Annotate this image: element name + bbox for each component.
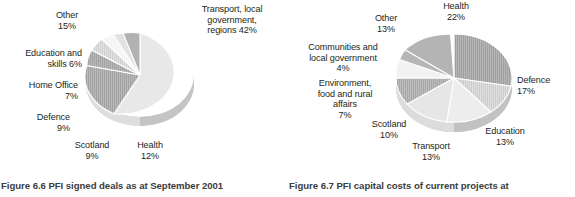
figure-caption: Figure 6.7 PFI capital costs of current …	[289, 180, 575, 191]
figure-pfi-capital-costs: Health 22% Other 13% Communities and loc…	[288, 0, 575, 197]
slice-label-environment: Environment, food and rural affairs 7%	[304, 78, 386, 120]
slice-label-other: Other 13%	[360, 13, 412, 34]
slice-label-health: Health 12%	[125, 140, 175, 161]
pie-chart-signed-deals: Other 15% Education and skills 6% Home O…	[0, 0, 287, 172]
slice-health	[454, 34, 512, 86]
slice-label-transport: Transport 13%	[400, 141, 462, 162]
slice-label-communities: Communities and local government 4%	[291, 42, 395, 74]
slice-label-health: Health 22%	[428, 1, 484, 22]
slice-label-transport: Transport, local government, regions 42%	[182, 4, 282, 36]
slice-label-scotland: Scotland 9%	[62, 140, 122, 161]
slice-label-defence: Defence 17%	[517, 75, 575, 96]
slice-label-defence: Defence 9%	[0, 112, 70, 133]
slice-label-education: Education and skills 6%	[0, 48, 82, 69]
figure-caption: Figure 6.6 PFI signed deals as at Septem…	[1, 180, 288, 191]
pie-chart-signed-deals-graphic	[84, 20, 196, 138]
slice-label-education: Education 13%	[474, 126, 536, 147]
slice-label-scotland: Scotland 10%	[360, 119, 418, 140]
pie-chart-capital-costs: Health 22% Other 13% Communities and loc…	[288, 0, 575, 172]
slice-label-home-office: Home Office 7%	[0, 80, 78, 101]
slice-label-other: Other 15%	[42, 10, 92, 31]
figure-pfi-signed-deals: Other 15% Education and skills 6% Home O…	[0, 0, 287, 197]
pie-slices	[396, 34, 512, 122]
pie-slices	[85, 33, 174, 115]
